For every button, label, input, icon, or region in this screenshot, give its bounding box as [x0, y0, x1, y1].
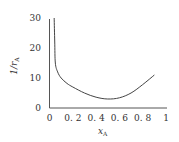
chart: 0102030 00. 20. 40. 60. 81 xA 1/rA	[0, 0, 179, 142]
x-tick-label: 0	[47, 113, 53, 123]
x-tick-label: 0. 8	[134, 113, 151, 123]
x-axis-label: xA	[98, 126, 108, 137]
y-tick-label: 0	[35, 103, 41, 113]
y-tick-label: 20	[30, 43, 42, 53]
x-tick-label: 1	[163, 113, 169, 123]
y-axis-label-main: 1/r	[9, 61, 19, 75]
y-tick-label: 30	[30, 13, 42, 23]
x-tick-label: 0. 2	[64, 113, 81, 123]
x-tick-labels: 00. 20. 40. 60. 81	[47, 113, 169, 123]
data-line	[54, 18, 154, 99]
y-axis-label-sub: A	[13, 57, 20, 63]
y-tick-labels: 0102030	[30, 13, 42, 113]
y-axis-label: 1/rA	[9, 57, 20, 75]
x-tick-label: 0. 4	[88, 113, 105, 123]
y-tick-label: 10	[30, 73, 42, 83]
x-tick-label: 0. 6	[111, 113, 128, 123]
x-axis-label-sub: A	[102, 130, 108, 137]
axes	[50, 19, 168, 108]
